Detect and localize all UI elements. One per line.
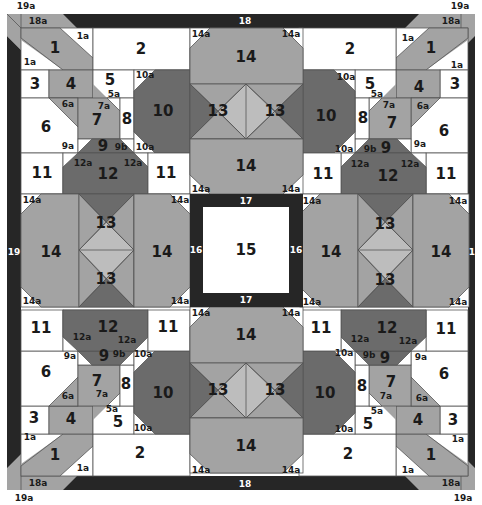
svg-text:7: 7 xyxy=(92,372,102,390)
svg-text:1a: 1a xyxy=(402,33,414,43)
svg-text:7: 7 xyxy=(387,114,397,132)
corner-19a-tr: 19a xyxy=(451,1,470,11)
svg-text:14a: 14a xyxy=(192,308,211,318)
svg-text:13: 13 xyxy=(375,215,396,233)
svg-text:11: 11 xyxy=(436,165,457,183)
svg-text:5a: 5a xyxy=(108,89,120,99)
svg-text:6a: 6a xyxy=(62,391,74,401)
svg-text:12a: 12a xyxy=(74,158,93,168)
svg-text:11: 11 xyxy=(158,318,179,336)
svg-text:4: 4 xyxy=(413,411,423,429)
svg-text:8: 8 xyxy=(358,109,368,127)
svg-text:8: 8 xyxy=(357,377,367,395)
svg-text:14a: 14a xyxy=(303,297,322,307)
svg-text:11: 11 xyxy=(313,165,334,183)
svg-text:14a: 14a xyxy=(192,29,211,39)
svg-text:9a: 9a xyxy=(64,351,76,361)
border-bottom-label: 18 xyxy=(239,479,252,489)
svg-text:12a: 12a xyxy=(124,158,143,168)
svg-text:9: 9 xyxy=(99,347,109,365)
svg-text:14: 14 xyxy=(152,243,173,261)
border-left-label: 19 xyxy=(8,247,21,257)
svg-text:1a: 1a xyxy=(24,432,36,442)
svg-text:11: 11 xyxy=(32,164,53,182)
svg-text:8: 8 xyxy=(122,110,132,128)
svg-text:13: 13 xyxy=(208,102,229,120)
svg-text:1: 1 xyxy=(426,446,436,464)
svg-text:12a: 12a xyxy=(118,335,137,345)
svg-text:14: 14 xyxy=(431,243,452,261)
svg-text:13: 13 xyxy=(96,270,117,288)
svg-text:14a: 14a xyxy=(192,465,211,475)
svg-text:1: 1 xyxy=(50,446,60,464)
svg-text:9a: 9a xyxy=(415,352,427,362)
svg-text:1a: 1a xyxy=(452,434,464,444)
svg-text:9a: 9a xyxy=(414,139,426,149)
border-top-label: 18 xyxy=(239,16,252,26)
svg-text:14a: 14a xyxy=(23,195,42,205)
svg-text:12: 12 xyxy=(98,165,119,183)
svg-text:6: 6 xyxy=(439,365,449,383)
frame-16-left: 16 xyxy=(190,245,203,255)
svg-text:6a: 6a xyxy=(416,393,428,403)
svg-text:10a: 10a xyxy=(335,424,354,434)
svg-text:7a: 7a xyxy=(98,101,110,111)
svg-text:10a: 10a xyxy=(134,423,153,433)
svg-text:1: 1 xyxy=(50,39,60,57)
svg-text:4: 4 xyxy=(66,75,76,93)
svg-text:7: 7 xyxy=(92,111,102,129)
svg-text:14a: 14a xyxy=(171,195,190,205)
svg-text:12: 12 xyxy=(98,318,119,336)
corner-19a-br: 19a xyxy=(454,493,473,503)
svg-text:10a: 10a xyxy=(337,72,356,82)
corner-18a-tr: 18a xyxy=(442,16,461,26)
svg-text:14: 14 xyxy=(236,326,257,344)
corner-18a-br: 18a xyxy=(442,478,461,488)
svg-text:1a: 1a xyxy=(77,31,89,41)
corner-18a-bl: 18a xyxy=(29,478,48,488)
svg-text:5a: 5a xyxy=(106,404,118,414)
svg-text:1a: 1a xyxy=(77,463,89,473)
svg-text:14: 14 xyxy=(236,157,257,175)
svg-text:14a: 14a xyxy=(282,465,301,475)
svg-text:9b: 9b xyxy=(113,349,126,359)
svg-text:5: 5 xyxy=(363,415,373,433)
svg-text:13: 13 xyxy=(208,381,229,399)
center-15: 15 xyxy=(236,241,257,259)
svg-text:13: 13 xyxy=(265,102,286,120)
svg-text:2: 2 xyxy=(345,40,355,58)
svg-text:11: 11 xyxy=(436,320,457,338)
svg-text:14a: 14a xyxy=(303,196,322,206)
svg-text:7a: 7a xyxy=(380,391,392,401)
frame-17-bottom: 17 xyxy=(240,295,253,305)
svg-text:5a: 5a xyxy=(371,406,383,416)
svg-text:14a: 14a xyxy=(171,296,190,306)
corner-18a-tl: 18a xyxy=(29,16,48,26)
svg-text:1a: 1a xyxy=(402,465,414,475)
svg-text:1a: 1a xyxy=(24,57,36,67)
svg-text:9a: 9a xyxy=(62,141,74,151)
svg-text:2: 2 xyxy=(135,444,145,462)
svg-text:3: 3 xyxy=(448,411,458,429)
svg-text:14: 14 xyxy=(236,437,257,455)
svg-text:14a: 14a xyxy=(282,308,301,318)
svg-text:10: 10 xyxy=(315,384,336,402)
svg-text:12a: 12a xyxy=(73,332,92,342)
svg-text:12a: 12a xyxy=(351,159,370,169)
svg-text:10: 10 xyxy=(316,107,337,125)
svg-text:14a: 14a xyxy=(449,196,468,206)
quilt-diagram: 18 18 19 19 18a 18a 18a 18a 19a 19a 19a … xyxy=(0,0,482,505)
svg-text:13: 13 xyxy=(265,381,286,399)
svg-text:10a: 10a xyxy=(335,348,354,358)
border-right-label: 19 xyxy=(469,247,482,257)
svg-text:13: 13 xyxy=(375,271,396,289)
svg-text:12: 12 xyxy=(378,167,399,185)
frame-17-top: 17 xyxy=(240,196,253,206)
svg-text:5: 5 xyxy=(113,413,123,431)
frame-16-right: 16 xyxy=(290,245,303,255)
svg-text:10a: 10a xyxy=(335,144,354,154)
svg-text:14: 14 xyxy=(321,243,342,261)
svg-text:7a: 7a xyxy=(96,389,108,399)
svg-text:5: 5 xyxy=(105,71,115,89)
svg-text:10a: 10a xyxy=(136,142,155,152)
